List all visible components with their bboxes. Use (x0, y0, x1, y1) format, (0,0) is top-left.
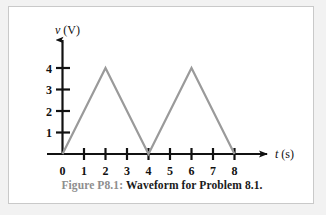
x-tick-label-2: 2 (103, 164, 109, 178)
plot-area: 1 2 3 4 0 1 2 3 4 5 6 7 8 v (V) t (s) (9, 7, 315, 179)
figure-caption: Figure P8.1: Waveform for Problem 8.1. (9, 179, 315, 191)
x-axis-label-unit: (s) (281, 147, 294, 161)
y-tick-label-1: 1 (46, 126, 52, 140)
y-tick-label-4: 4 (46, 62, 52, 76)
x-axis-label: t (s) (275, 147, 294, 161)
waveform-chart: 1 2 3 4 0 1 2 3 4 5 6 7 8 v (V) t (s) (9, 7, 315, 179)
x-tick-label-6: 6 (189, 164, 195, 178)
y-axis-label-unit: (V) (63, 23, 80, 37)
figure-caption-text: Waveform for Problem 8.1. (126, 179, 263, 191)
figure-caption-label: Figure P8.1: (61, 179, 123, 191)
y-axis-label: v (V) (55, 23, 80, 37)
x-tick-label-5: 5 (167, 164, 173, 178)
x-tick-label-4: 4 (146, 164, 152, 178)
x-tick-label-3: 3 (124, 164, 130, 178)
figure-panel: 1 2 3 4 0 1 2 3 4 5 6 7 8 v (V) t (s) Fi… (8, 6, 314, 204)
y-tick-label-2: 2 (46, 105, 52, 119)
x-tick-label-7: 7 (210, 164, 216, 178)
waveform-series (63, 68, 235, 154)
x-tick-label-8: 8 (232, 164, 238, 178)
x-tick-label-1: 1 (81, 164, 87, 178)
y-tick-label-3: 3 (46, 83, 52, 97)
x-tick-label-0: 0 (60, 164, 66, 178)
